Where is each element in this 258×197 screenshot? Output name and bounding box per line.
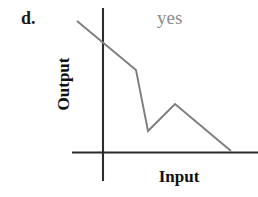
x-axis-label: Input [159, 168, 200, 185]
annotation-yes: yes [157, 8, 182, 27]
figure-panel-d: d. yes Output Input [0, 0, 258, 197]
y-axis-label: Output [55, 58, 72, 111]
output-curve [77, 21, 231, 151]
plot-area [0, 0, 258, 197]
panel-letter: d. [21, 9, 36, 27]
